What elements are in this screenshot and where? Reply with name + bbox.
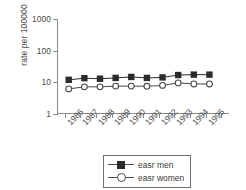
y-tick-label: 1000 — [32, 14, 51, 24]
chart-legend: easr men easr women — [103, 155, 191, 188]
data-point-marker-square — [112, 75, 118, 81]
legend-label-women: easr women — [138, 173, 184, 183]
legend-item-men[interactable]: easr men — [108, 158, 184, 171]
legend-item-women[interactable]: easr women — [108, 171, 184, 184]
data-point-marker-circle — [175, 80, 181, 86]
chart-container: rate per 100000 1000100101 1986198719881… — [0, 0, 246, 190]
filled-square-icon — [108, 159, 134, 170]
plot-area: 1000100101 19861987198819891990199119921… — [57, 19, 229, 114]
data-point-marker-circle — [97, 84, 103, 90]
data-point-marker-circle — [128, 83, 134, 89]
data-point-marker-square — [144, 75, 150, 81]
data-point-marker-square — [159, 74, 165, 80]
series-easr-women — [66, 80, 213, 92]
data-point-marker-circle — [113, 83, 119, 89]
data-point-marker-circle — [81, 84, 87, 90]
data-point-marker-square — [81, 75, 87, 81]
y-tick-label: 100 — [37, 46, 51, 56]
data-point-marker-circle — [160, 83, 166, 89]
y-tick-label: 10 — [42, 77, 51, 87]
data-point-marker-square — [66, 77, 72, 83]
open-circle-icon — [108, 172, 134, 183]
series-line — [69, 75, 210, 80]
data-point-marker-square — [128, 74, 134, 80]
data-point-marker-circle — [207, 81, 213, 87]
y-axis-title: rate per 100000 — [19, 0, 29, 85]
y-tick-label: 1 — [46, 109, 51, 119]
series-line — [69, 83, 210, 89]
series-easr-men — [66, 71, 213, 83]
data-point-marker-square — [175, 72, 181, 78]
data-point-marker-circle — [66, 86, 72, 92]
data-point-marker-square — [206, 71, 212, 77]
data-point-marker-square — [97, 76, 103, 82]
data-point-marker-circle — [191, 81, 197, 87]
data-point-marker-circle — [144, 83, 150, 89]
data-point-marker-square — [191, 71, 197, 77]
legend-label-men: easr men — [138, 160, 173, 170]
series-plot — [57, 19, 229, 114]
y-tick-mark — [53, 114, 58, 115]
